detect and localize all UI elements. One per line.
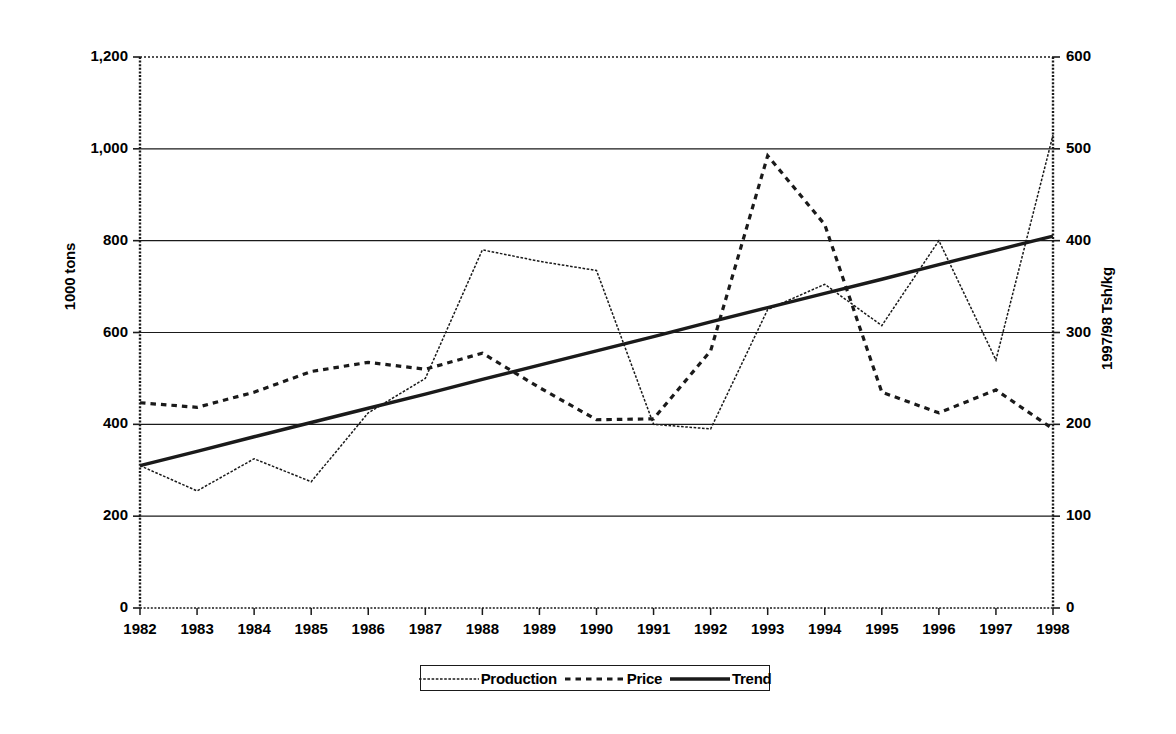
y-axis-left-tick-label: 1,200 <box>62 47 128 64</box>
x-axis-tick-label: 1992 <box>681 620 741 637</box>
x-axis-tick-label: 1988 <box>452 620 512 637</box>
y-axis-right-tick-label: 0 <box>1066 598 1074 615</box>
x-axis-tick-label: 1993 <box>738 620 798 637</box>
series-line-price <box>140 156 1053 429</box>
y-axis-left-tick-label: 200 <box>62 506 128 523</box>
x-axis-tick-label: 1998 <box>1023 620 1083 637</box>
y-axis-right-tick-label: 600 <box>1066 47 1091 64</box>
legend-swatch-trend-icon <box>670 674 730 682</box>
legend-swatch-production-icon <box>419 674 479 682</box>
x-axis-tick-label: 1989 <box>509 620 569 637</box>
y-axis-right-tick-label: 100 <box>1066 506 1091 523</box>
x-axis-tick-label: 1982 <box>110 620 170 637</box>
x-axis-tick-label: 1986 <box>338 620 398 637</box>
y-axis-right-title: 1997/98 Tsh/kg <box>1098 229 1115 409</box>
legend-swatch-price-icon <box>565 674 625 682</box>
gridlines-group <box>140 57 1053 516</box>
legend-label: Trend <box>732 670 771 687</box>
x-axis-tick-label: 1991 <box>624 620 684 637</box>
legend-item-price: Price <box>561 670 666 687</box>
y-axis-left-tick-label: 800 <box>62 231 128 248</box>
x-axis-tick-label: 1985 <box>281 620 341 637</box>
x-axis-tick-label: 1994 <box>795 620 855 637</box>
y-axis-right-tick-label: 400 <box>1066 231 1091 248</box>
legend-item-production: Production <box>415 670 561 687</box>
y-axis-left-tick-label: 400 <box>62 414 128 431</box>
y-axis-right-tick-label: 200 <box>1066 414 1091 431</box>
x-tick-marks-group <box>140 608 1053 615</box>
x-axis-tick-label: 1990 <box>567 620 627 637</box>
x-axis-tick-label: 1983 <box>167 620 227 637</box>
series-line-production <box>140 135 1053 491</box>
x-axis-tick-label: 1996 <box>909 620 969 637</box>
legend-item-trend: Trend <box>666 670 775 687</box>
legend-label: Price <box>627 670 662 687</box>
series-paths-group <box>140 135 1053 491</box>
y-axis-left-tick-label: 1,000 <box>62 139 128 156</box>
y-axis-left-tick-label: 600 <box>62 323 128 340</box>
y-axis-right-tick-label: 300 <box>1066 323 1091 340</box>
x-axis-tick-label: 1987 <box>395 620 455 637</box>
x-axis-tick-label: 1997 <box>966 620 1026 637</box>
x-axis-tick-label: 1995 <box>852 620 912 637</box>
x-axis-tick-label: 1984 <box>224 620 284 637</box>
chart-container: 1000 tons 1997/98 Tsh/kg 02004006008001,… <box>0 0 1176 734</box>
y-axis-right-tick-label: 500 <box>1066 139 1091 156</box>
legend-label: Production <box>481 670 557 687</box>
y-axis-left-tick-label: 0 <box>62 598 128 615</box>
chart-legend: ProductionPriceTrend <box>420 665 770 691</box>
